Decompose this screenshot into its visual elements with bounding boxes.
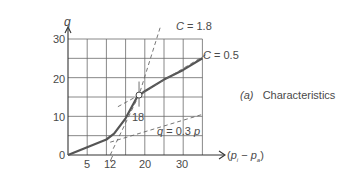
- caption-tag: (a): [240, 89, 253, 101]
- label-c-1-8: CC = 1.8 = 1.8: [176, 21, 212, 32]
- y-tick-0: 0: [59, 150, 65, 161]
- x-axis-close: ): [260, 149, 264, 161]
- x-tick-5: 5: [84, 159, 90, 170]
- y-tick-20: 20: [53, 74, 65, 85]
- label-operating-18: 18: [132, 112, 144, 123]
- x-tick-12: 12: [104, 159, 116, 170]
- caption: (a) Characteristics: [240, 90, 335, 101]
- x-axis-minus: −: [238, 149, 251, 161]
- x-axis-label: (pi − pa): [227, 150, 264, 163]
- y-tick-10: 10: [53, 112, 65, 123]
- y-tick-30: 30: [53, 34, 65, 45]
- x-tick-20: 20: [139, 159, 151, 170]
- series-characteristic: [68, 58, 202, 155]
- y-axis-label: q: [64, 16, 71, 28]
- label-c-0-5: C = 0.5: [203, 50, 239, 61]
- x-tick-30: 30: [176, 159, 188, 170]
- caption-text: Characteristics: [263, 89, 336, 101]
- grid: [68, 39, 202, 155]
- label-q-0-3p: q = 0.3 p: [157, 126, 200, 137]
- operating-point-marker: [136, 92, 142, 98]
